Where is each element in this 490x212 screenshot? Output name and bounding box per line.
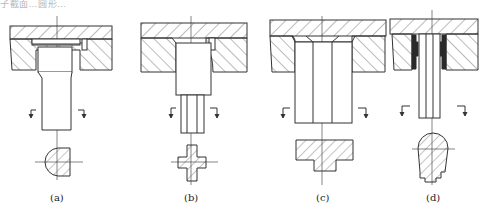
punch-body [295,42,352,123]
caption-b: (b) [184,192,198,203]
die-block-left [141,38,176,72]
top-plate [10,26,112,39]
section-inverted-t [296,140,353,171]
top-plate [141,23,247,38]
section-bullet [418,133,448,182]
section-cross [178,145,206,181]
punch-body [419,34,440,118]
punch-shank [38,72,72,130]
seal-right [440,35,446,69]
die-block-left [392,34,412,70]
figure-c [270,16,386,185]
figure-a [10,16,112,180]
caption-a: (a) [50,192,64,203]
caption-d: (d) [426,192,440,203]
figure-b [141,16,247,185]
die-block-right [352,36,385,72]
punch-shank [181,95,204,133]
caption-c: (c) [316,192,329,203]
die-block-right [446,34,478,70]
screw [82,39,87,50]
seal-left [412,35,418,69]
figure-d [390,10,478,185]
punch-head [38,47,72,72]
top-plate [390,19,478,34]
top-plate [270,20,386,36]
die-block-left [270,36,295,72]
punch-head [176,43,211,95]
